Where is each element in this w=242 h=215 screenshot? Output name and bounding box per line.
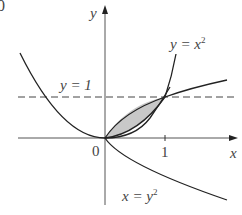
- x-tick-label-1: 1: [161, 145, 169, 160]
- x-axis-label: x: [230, 146, 237, 161]
- origin-label: 0: [92, 144, 100, 159]
- equation-text: x = y: [122, 188, 153, 204]
- label-y-equals-1: y = 1: [60, 78, 92, 93]
- y-axis-arrow-icon: [102, 5, 108, 14]
- curve-y-equals-x-squared-upper: [165, 54, 176, 97]
- corner-fragment: 0: [0, 0, 5, 14]
- y-axis-label: y: [90, 6, 97, 21]
- exponent: 2: [153, 187, 158, 197]
- curve-x-equals-y-squared: [105, 80, 227, 200]
- diagram-canvas: [0, 0, 242, 215]
- exponent: 2: [201, 35, 206, 45]
- label-y-equals-x-squared: y = x2: [170, 36, 205, 52]
- x-axis-arrow-icon: [229, 135, 238, 141]
- equation-text: y = x: [170, 36, 201, 52]
- curve-y-equals-x-squared: [20, 53, 170, 138]
- label-x-equals-y-squared: x = y2: [122, 188, 157, 204]
